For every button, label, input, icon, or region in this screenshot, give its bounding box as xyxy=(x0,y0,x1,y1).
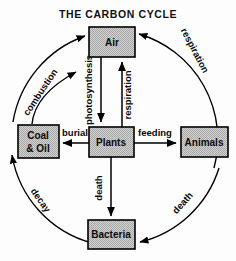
edge-label-burial: burial xyxy=(62,127,88,138)
carbon-cycle-diagram: THE CARBON CYCLE respiration combustion … xyxy=(0,0,236,261)
diagram-canvas: THE CARBON CYCLE respiration combustion … xyxy=(0,0,236,261)
edge-death-plants: death xyxy=(93,157,111,216)
edge-label-feeding: feeding xyxy=(138,127,172,138)
arc-label-decay: decay xyxy=(29,186,54,215)
edge-label-death-plants: death xyxy=(93,175,104,201)
node-air-label: Air xyxy=(105,37,119,48)
node-plants[interactable]: Plants xyxy=(89,127,134,157)
node-animals-label: Animals xyxy=(185,137,224,148)
node-coal-oil-label-line1: Coal xyxy=(27,130,49,141)
node-bacteria-label: Bacteria xyxy=(91,229,131,240)
arc-label-combustion: combustion xyxy=(20,66,59,117)
node-plants-label: Plants xyxy=(96,137,126,148)
arc-label-death-animals: death xyxy=(170,189,195,215)
arc-decay: decay xyxy=(12,155,92,243)
node-animals[interactable]: Animals xyxy=(181,127,228,157)
node-bacteria[interactable]: Bacteria xyxy=(88,220,135,249)
arc-death-animals: death xyxy=(140,168,219,242)
edge-label-photosynthesis: photosynthesis xyxy=(83,55,94,125)
node-air[interactable]: Air xyxy=(89,27,135,57)
edge-feeding: feeding xyxy=(134,127,176,143)
node-coal-oil[interactable]: Coal & Oil xyxy=(18,125,59,158)
edge-respiration-plants: respiration xyxy=(122,62,133,127)
arc-label-respiration-animals: respiration xyxy=(179,26,212,75)
page-title: THE CARBON CYCLE xyxy=(59,8,177,20)
arc-line-decay xyxy=(12,155,92,243)
edge-photosynthesis: photosynthesis xyxy=(83,55,101,125)
edge-burial: burial xyxy=(62,127,89,143)
node-coal-oil-label-line2: & Oil xyxy=(26,143,50,154)
edge-label-respiration-plants: respiration xyxy=(122,70,133,119)
arc-combustion: combustion xyxy=(13,36,85,122)
